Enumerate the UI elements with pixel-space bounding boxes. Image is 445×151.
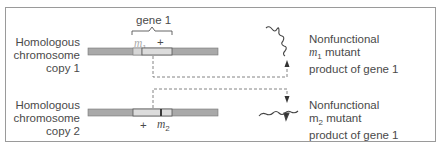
arrow-down-icon [285,96,290,103]
expression-path-copy2 [153,89,287,108]
chromosome-copy1 [88,48,218,55]
product2-mutant-text: mutant [323,112,361,124]
protein-squiggle-m1-icon [266,27,286,56]
expression-path-copy1 [153,56,287,77]
product2-line3: product of gene 1 [309,129,399,142]
product2-line2: m2 mutant [309,112,399,129]
gene-bracket [132,27,172,35]
product2-symbol: m [309,112,319,124]
arrow-up-icon [285,60,290,67]
product1-line3: product of gene 1 [309,63,399,76]
m2-mutation-mark [160,109,162,116]
product2-line1: Nonfunctional [309,99,399,112]
product1-description: Nonfunctional m1 mutant product of gene … [309,33,399,76]
protein-squiggle-m2-icon [259,111,298,120]
product2-description: Nonfunctional m2 mutant product of gene … [309,99,399,142]
chromosome-copy2 [88,109,218,116]
product1-mutant-text: mutant [322,46,360,58]
product1-line1: Nonfunctional [309,33,399,46]
product1-line2: m1 mutant [309,46,399,63]
